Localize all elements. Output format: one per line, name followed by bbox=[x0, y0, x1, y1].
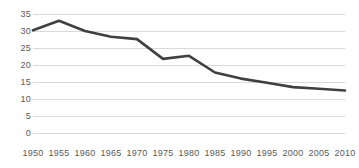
series-1-line bbox=[33, 21, 345, 91]
line-chart: 05101520253035 1950195519601965197019751… bbox=[0, 0, 359, 168]
series-line-layer bbox=[0, 0, 359, 168]
